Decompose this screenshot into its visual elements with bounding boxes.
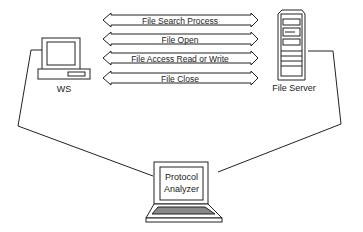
svg-text:File Search Process: File Search Process (142, 16, 218, 26)
tower-server-icon (278, 10, 305, 80)
message-arrow-3: File Access Read or Write (103, 51, 258, 65)
server-label: File Server (272, 83, 316, 93)
svg-text:File Access Read or Write: File Access Read or Write (131, 54, 229, 64)
desktop-computer-icon (38, 38, 90, 79)
analyzer-label-line1: Protocol (165, 172, 198, 182)
diagram-canvas: WS File Server Protocol Analyzer File Se… (0, 0, 363, 232)
analyzer-label-line2: Analyzer (164, 184, 199, 194)
message-arrow-4: File Close (103, 71, 258, 85)
svg-text:File Close: File Close (161, 74, 199, 84)
workstation-label: WS (57, 84, 72, 94)
message-arrow-2: File Open (103, 32, 258, 46)
svg-text:File Open: File Open (162, 35, 199, 45)
message-arrow-1: File Search Process (103, 13, 258, 27)
